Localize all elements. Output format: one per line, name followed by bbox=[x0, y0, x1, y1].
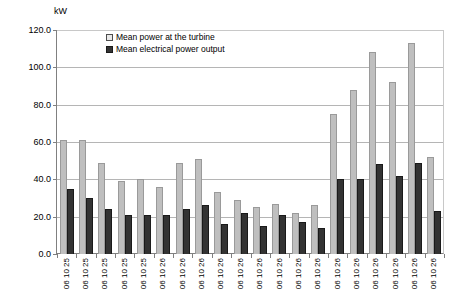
bar-mean-power-at-the-turbine bbox=[118, 181, 125, 254]
bar-series-container bbox=[57, 31, 444, 254]
bar-mean-electrical-power-output bbox=[396, 176, 403, 254]
bar-group bbox=[76, 31, 95, 254]
bar-group bbox=[212, 31, 231, 254]
y-axis-tick-label: 60.0 bbox=[6, 138, 51, 147]
y-axis-tick-label: 20.0 bbox=[6, 213, 51, 222]
bar-mean-electrical-power-output bbox=[415, 163, 422, 254]
bar-group bbox=[134, 31, 153, 254]
bar-mean-electrical-power-output bbox=[260, 226, 267, 254]
bar-mean-electrical-power-output bbox=[434, 211, 441, 254]
legend-item: Mean electrical power output bbox=[106, 43, 225, 55]
bar-mean-power-at-the-turbine bbox=[272, 204, 279, 254]
bar-group bbox=[367, 31, 386, 254]
x-axis-tick-label: 06 10 25 bbox=[99, 258, 111, 295]
bar-mean-electrical-power-output bbox=[357, 179, 364, 254]
bar-mean-power-at-the-turbine bbox=[60, 140, 67, 254]
x-axis-tick-label: 06 10 26 bbox=[254, 258, 266, 295]
x-axis-tick-label: 06 10 25 bbox=[138, 258, 150, 295]
bar-group bbox=[405, 31, 424, 254]
x-axis-tick-label: 06 10 25 bbox=[80, 258, 92, 295]
bar-mean-electrical-power-output bbox=[125, 215, 132, 254]
chart-legend: Mean power at the turbineMean electrical… bbox=[106, 31, 225, 55]
bar-mean-electrical-power-output bbox=[144, 215, 151, 254]
bar-mean-power-at-the-turbine bbox=[176, 163, 183, 254]
y-axis-tick-label: 0.0 bbox=[6, 250, 51, 259]
bar-mean-power-at-the-turbine bbox=[408, 43, 415, 254]
bar-mean-electrical-power-output bbox=[67, 189, 74, 254]
bar-group bbox=[270, 31, 289, 254]
x-axis-tick-label: 06 10 26 bbox=[370, 258, 382, 295]
bar-mean-power-at-the-turbine bbox=[389, 82, 396, 254]
bar-group bbox=[250, 31, 269, 254]
bar-mean-electrical-power-output bbox=[241, 213, 248, 254]
x-axis-tick-label: 06 10 26 bbox=[390, 258, 402, 295]
x-axis-tick-label: 06 10 26 bbox=[409, 258, 421, 295]
y-axis-tick-label: 100.0 bbox=[6, 63, 51, 72]
x-axis-tick-label: 06 10 26 bbox=[235, 258, 247, 295]
bar-group bbox=[192, 31, 211, 254]
legend-swatch-icon bbox=[106, 46, 113, 53]
bar-mean-electrical-power-output bbox=[105, 209, 112, 254]
y-axis-tick-label: 80.0 bbox=[6, 101, 51, 110]
x-axis-tick-label: 06 10 26 bbox=[274, 258, 286, 295]
bar-mean-electrical-power-output bbox=[279, 215, 286, 254]
x-axis-tick-mark bbox=[444, 254, 445, 258]
bar-mean-electrical-power-output bbox=[376, 164, 383, 254]
bar-mean-power-at-the-turbine bbox=[214, 192, 221, 254]
bar-mean-power-at-the-turbine bbox=[330, 114, 337, 254]
x-axis-tick-label: 06 10 26 bbox=[177, 258, 189, 295]
bar-group bbox=[173, 31, 192, 254]
bar-mean-power-at-the-turbine bbox=[98, 163, 105, 254]
legend-label: Mean power at the turbine bbox=[116, 31, 215, 43]
bar-mean-electrical-power-output bbox=[299, 222, 306, 254]
x-axis-tick-label: 06 10 26 bbox=[312, 258, 324, 295]
x-axis-labels: 06 10 2506 10 2506 10 2506 10 2506 10 25… bbox=[57, 258, 444, 295]
bar-chart: kW 0.020.040.060.080.0100.0120.0 06 10 2… bbox=[0, 0, 449, 295]
legend-item: Mean power at the turbine bbox=[106, 31, 225, 43]
x-axis-tick-label: 06 10 26 bbox=[196, 258, 208, 295]
bar-group bbox=[231, 31, 250, 254]
y-axis-tick-label: 120.0 bbox=[6, 26, 51, 35]
bar-mean-power-at-the-turbine bbox=[311, 205, 318, 254]
bar-mean-power-at-the-turbine bbox=[427, 157, 434, 254]
bar-group bbox=[154, 31, 173, 254]
bar-group bbox=[289, 31, 308, 254]
x-axis-tick-label: 06 10 26 bbox=[428, 258, 440, 295]
bar-mean-power-at-the-turbine bbox=[195, 159, 202, 254]
bar-mean-power-at-the-turbine bbox=[292, 213, 299, 254]
x-axis-tick-label: 06 10 25 bbox=[61, 258, 73, 295]
bar-mean-electrical-power-output bbox=[337, 179, 344, 254]
bar-group bbox=[328, 31, 347, 254]
bar-mean-power-at-the-turbine bbox=[234, 200, 241, 254]
legend-swatch-icon bbox=[106, 34, 113, 41]
bar-group bbox=[425, 31, 444, 254]
bar-mean-power-at-the-turbine bbox=[369, 52, 376, 254]
x-axis-tick-label: 06 10 26 bbox=[215, 258, 227, 295]
bar-mean-power-at-the-turbine bbox=[253, 207, 260, 254]
bar-mean-power-at-the-turbine bbox=[137, 179, 144, 254]
bar-mean-electrical-power-output bbox=[183, 209, 190, 254]
y-axis-unit-label: kW bbox=[54, 6, 67, 17]
x-axis-tick-label: 06 10 26 bbox=[332, 258, 344, 295]
x-axis-tick-label: 06 10 26 bbox=[351, 258, 363, 295]
y-axis-tick-label: 40.0 bbox=[6, 175, 51, 184]
bar-group bbox=[347, 31, 366, 254]
x-axis-tick-label: 06 10 26 bbox=[157, 258, 169, 295]
bar-mean-power-at-the-turbine bbox=[350, 90, 357, 254]
bar-group bbox=[57, 31, 76, 254]
bar-mean-electrical-power-output bbox=[86, 198, 93, 254]
bar-group bbox=[308, 31, 327, 254]
legend-label: Mean electrical power output bbox=[116, 43, 225, 55]
bar-mean-power-at-the-turbine bbox=[79, 140, 86, 254]
bar-mean-electrical-power-output bbox=[163, 215, 170, 254]
bar-group bbox=[96, 31, 115, 254]
x-axis-tick-label: 06 10 26 bbox=[293, 258, 305, 295]
bar-mean-electrical-power-output bbox=[221, 224, 228, 254]
bar-mean-power-at-the-turbine bbox=[156, 187, 163, 254]
bar-group bbox=[386, 31, 405, 254]
bar-mean-electrical-power-output bbox=[202, 205, 209, 254]
bar-mean-electrical-power-output bbox=[318, 228, 325, 254]
x-axis-tick-label: 06 10 25 bbox=[119, 258, 131, 295]
bar-group bbox=[115, 31, 134, 254]
